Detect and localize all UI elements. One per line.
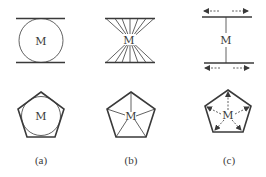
center-label-m: M [35,110,46,123]
panel-b-bottom-pentagon-spokes: M [107,92,155,137]
panel-b: M M (b) [105,19,155,168]
arrow-upper-right-icon [235,107,249,114]
panel-b-top-rays: M [105,19,155,63]
caption-b: (b) [125,154,138,167]
center-label-m: M [125,110,136,123]
spoke [136,109,155,116]
spoke [107,109,125,115]
panel-a-top-plates-circle: M [16,19,65,63]
panel-c-bottom-pentagon-arrows: M [205,90,251,132]
center-label-m: M [222,109,233,122]
caption-c: (c) [223,154,236,167]
center-label-m: M [123,34,134,47]
center-label-m: M [35,35,46,48]
arrow-upper-left-icon [207,107,221,114]
center-label-m: M [220,34,231,47]
panel-a: M M (a) [16,19,65,168]
panel-c-top-stem: M [202,11,254,68]
panel-c: M M (c) [202,11,254,167]
caption-a: (a) [35,154,48,167]
panel-a-bottom-pentagon-circle: M [18,92,64,137]
figure-canvas: M M (a) [0,0,266,177]
spoke [135,120,146,137]
